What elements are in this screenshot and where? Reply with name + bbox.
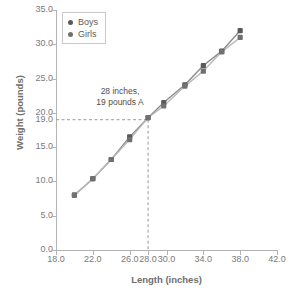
series-points — [72, 28, 243, 198]
data-point-boys — [201, 63, 206, 68]
series-line-boys — [74, 31, 240, 196]
data-point-girls — [238, 35, 243, 40]
chart-figure: Weight (pounds) Length (inches) 0.05.010… — [0, 0, 290, 295]
annotation-highlight-point: 28 inches, 19 pounds A — [79, 86, 161, 108]
data-point-girls — [219, 49, 224, 54]
data-point-girls — [109, 157, 114, 162]
legend-item-boys: Boys — [68, 16, 98, 28]
data-point-girls — [161, 103, 166, 108]
data-point-boys — [238, 28, 243, 33]
guide-lines — [56, 120, 148, 250]
data-point-girls — [127, 137, 132, 142]
data-point-girls — [90, 176, 95, 181]
chart-legend: Boys Girls — [62, 12, 106, 44]
data-point-girls — [145, 115, 150, 120]
data-point-girls — [201, 68, 206, 73]
data-point-girls — [182, 84, 187, 89]
plot-area — [0, 0, 290, 295]
legend-label-boys: Boys — [78, 16, 98, 28]
legend-marker-boys-icon — [68, 20, 73, 25]
series-line-girls — [74, 37, 240, 195]
legend-marker-girls-icon — [68, 32, 73, 37]
data-point-girls — [72, 193, 77, 198]
annotation-line-2: 19 pounds A — [79, 97, 161, 108]
legend-item-girls: Girls — [68, 28, 98, 40]
annotation-line-1: 28 inches, — [79, 86, 161, 97]
series-lines — [74, 31, 240, 196]
legend-label-girls: Girls — [78, 28, 97, 40]
